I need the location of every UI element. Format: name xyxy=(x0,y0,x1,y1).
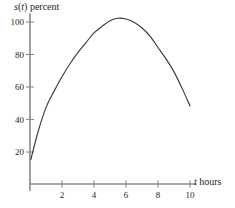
x-axis-title-units: hours xyxy=(197,176,222,187)
y-tick-label: 60 xyxy=(0,83,24,92)
y-axis-title: s(t) percent xyxy=(14,1,59,12)
x-tick-label: 8 xyxy=(156,191,161,200)
x-tick-label: 6 xyxy=(124,191,129,200)
x-axis-title: t hours xyxy=(194,176,222,187)
data-series-curve xyxy=(31,18,190,159)
x-tick-label: 10 xyxy=(186,191,195,200)
y-axis-title-units: percent xyxy=(27,1,59,12)
y-tick-label: 80 xyxy=(0,50,24,59)
y-tick-label: 20 xyxy=(0,148,24,157)
x-tick-label: 4 xyxy=(92,191,97,200)
chart-figure: 20 40 60 80 100 2 4 6 8 10 s(t) percent … xyxy=(0,0,235,208)
y-tick-label: 40 xyxy=(0,115,24,124)
x-tick-label: 2 xyxy=(60,191,65,200)
y-tick-label: 100 xyxy=(0,18,24,27)
chart-axes xyxy=(30,14,196,190)
